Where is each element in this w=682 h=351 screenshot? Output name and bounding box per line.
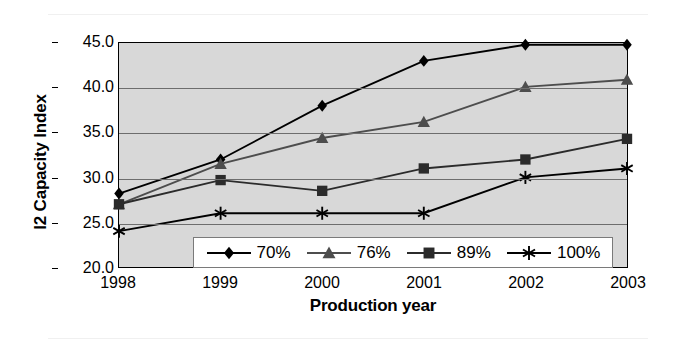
data-point-square-marker bbox=[114, 199, 124, 209]
data-point-diamond-marker bbox=[622, 39, 632, 51]
y-tick-label: 30.0 bbox=[62, 170, 114, 186]
series-76pct bbox=[113, 74, 633, 210]
data-point-square-marker bbox=[317, 186, 327, 196]
x-tick-label: 2003 bbox=[610, 274, 646, 292]
scan-artifact-top bbox=[48, 14, 648, 15]
legend-item-89pct[interactable]: 89% bbox=[406, 244, 491, 262]
legend-item-76pct[interactable]: 76% bbox=[306, 244, 391, 262]
series-100pct bbox=[113, 162, 632, 238]
y-axis-title: I2 Capacity Index bbox=[31, 47, 51, 277]
legend-marker-square-icon bbox=[406, 244, 452, 262]
series-89pct bbox=[114, 134, 632, 210]
data-point-diamond-marker bbox=[419, 55, 429, 67]
x-axis-title: Production year bbox=[118, 296, 628, 316]
data-point-diamond-marker bbox=[114, 188, 124, 200]
y-axis-tick-labels: 20.025.030.035.040.045.0 bbox=[58, 0, 114, 351]
y-tick-mark bbox=[52, 223, 58, 224]
y-tick-mark bbox=[52, 132, 58, 133]
y-tick-label: 40.0 bbox=[62, 79, 114, 95]
series-layer bbox=[119, 43, 627, 267]
legend-marker-triangle-icon bbox=[306, 244, 352, 262]
y-tick-mark bbox=[52, 268, 58, 269]
legend-item-100pct[interactable]: 100% bbox=[506, 244, 600, 262]
y-tick-mark bbox=[52, 178, 58, 179]
plot-area bbox=[118, 42, 628, 268]
y-tick-label: 45.0 bbox=[62, 34, 114, 50]
legend-label: 100% bbox=[554, 244, 600, 261]
gridline bbox=[119, 224, 627, 225]
data-point-square-marker bbox=[622, 134, 632, 144]
x-tick-label: 2001 bbox=[406, 274, 442, 292]
chart-legend: 70%76%89%100% bbox=[193, 237, 613, 268]
chart-figure: I2 Capacity Index 20.025.030.035.040.045… bbox=[0, 0, 682, 351]
gridline bbox=[119, 88, 627, 89]
y-tick-mark bbox=[52, 42, 58, 43]
y-tick-mark bbox=[52, 87, 58, 88]
legend-label: 76% bbox=[354, 244, 391, 261]
legend-marker-diamond-icon bbox=[206, 244, 252, 262]
scan-artifact-bottom bbox=[48, 338, 648, 339]
gridline bbox=[119, 133, 627, 134]
x-tick-label: 1999 bbox=[202, 274, 238, 292]
series-line bbox=[119, 45, 627, 194]
legend-label: 89% bbox=[454, 244, 491, 261]
y-tick-label: 35.0 bbox=[62, 124, 114, 140]
data-point-diamond-marker bbox=[317, 100, 327, 112]
x-axis-tick-labels: 199819992000200120022003 bbox=[118, 274, 628, 296]
series-line bbox=[119, 139, 627, 204]
data-point-diamond-marker bbox=[521, 39, 531, 51]
data-point-square-marker bbox=[419, 163, 429, 173]
data-point-square-marker bbox=[520, 154, 530, 164]
x-tick-label: 2000 bbox=[304, 274, 340, 292]
x-tick-label: 1998 bbox=[100, 274, 136, 292]
y-tick-label: 25.0 bbox=[62, 215, 114, 231]
x-tick-label: 2002 bbox=[508, 274, 544, 292]
gridline bbox=[119, 179, 627, 180]
legend-item-70pct[interactable]: 70% bbox=[206, 244, 291, 262]
data-point-square-marker bbox=[215, 175, 225, 185]
legend-marker-asterisk-icon bbox=[506, 244, 552, 262]
legend-label: 70% bbox=[254, 244, 291, 261]
